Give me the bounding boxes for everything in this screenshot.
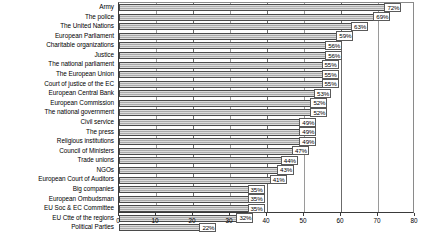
x-axis-tick [377,213,378,216]
bar [119,109,311,116]
bar-row: 52% [119,108,415,118]
bar [119,157,282,164]
category-label: Big companies [0,184,116,194]
bar-row: 49% [119,118,415,128]
bar-value-label: 56% [325,41,342,50]
bar [119,119,300,126]
bar-value-label: 53% [314,89,331,98]
bar-row: 44% [119,156,415,166]
bar-pattern [120,101,310,106]
x-axis-tick-label: 80 [410,217,417,224]
x-axis-tick-label: 30 [225,217,232,224]
bar-value-label: 55% [322,60,339,69]
bar-row: 56% [119,41,415,51]
bar-value-label: 52% [310,108,327,117]
bar [119,129,300,136]
category-label: European Commission [0,98,116,108]
category-label: Political Parties [0,222,116,232]
category-axis-labels: ArmyThe policeThe United NationsEuropean… [0,2,116,213]
bar [119,186,249,193]
category-label: Court of justice of the EC [0,79,116,89]
category-label: The United Nations [0,21,116,31]
x-axis-tick [340,213,341,216]
bar-row: 35% [119,185,415,195]
bar-pattern [120,15,373,20]
category-label: European Central Bank [0,88,116,98]
bar-pattern [120,120,299,125]
bar-value-label: 56% [325,51,342,60]
bar-pattern [120,5,384,10]
bar-pattern [120,197,248,202]
bar-pattern [120,149,292,154]
bar [119,23,352,30]
bar-value-label: 44% [281,156,298,165]
bar-pattern [120,43,325,48]
bar [119,177,271,184]
bar-rows: 72%69%63%59%56%56%55%55%55%53%52%52%49%4… [119,3,415,214]
x-axis: 01020304050607080 [118,213,414,229]
category-label: The European Union [0,69,116,79]
x-axis-tick-label: 70 [373,217,380,224]
bar-pattern [120,72,322,77]
bar-pattern [120,178,270,183]
bar [119,4,385,11]
category-label: Justice [0,50,116,60]
bar-row: 59% [119,32,415,42]
category-label: European Parliament [0,31,116,41]
x-axis-tick [155,213,156,216]
category-label: Religious institutions [0,136,116,146]
x-axis-tick [266,213,267,216]
bar-pattern [120,34,336,39]
bar-value-label: 55% [322,79,339,88]
bar-value-label: 35% [248,194,265,203]
plot-area: 72%69%63%59%56%56%55%55%55%53%52%52%49%4… [118,2,414,213]
bar-value-label: 49% [299,118,316,127]
bar-row: 52% [119,99,415,109]
bar [119,52,326,59]
category-label: Trade unions [0,155,116,165]
x-axis-tick-label: 60 [336,217,343,224]
bar [119,90,315,97]
bar-pattern [120,168,277,173]
category-label: NGOs [0,165,116,175]
bar [119,33,337,40]
bar-row: 55% [119,80,415,90]
bar-row: 43% [119,166,415,176]
bar-value-label: 52% [310,98,327,107]
bar [119,196,249,203]
x-axis-tick [303,213,304,216]
x-axis-tick-label: 50 [299,217,306,224]
x-axis-tick [229,213,230,216]
bar-pattern [120,158,281,163]
bar [119,167,278,174]
bar-row: 55% [119,70,415,80]
bar-value-label: 69% [373,12,390,21]
category-label: EU Ctte of the regions [0,213,116,223]
bar [119,138,300,145]
bar-row: 72% [119,3,415,13]
x-axis-tick-label: 0 [116,217,120,224]
bar-row: 41% [119,175,415,185]
bar [119,81,323,88]
bar-pattern [120,139,299,144]
bar [119,205,249,212]
category-label: European Ombudsman [0,194,116,204]
bar [119,148,293,155]
category-label: Charitable organizations [0,40,116,50]
category-label: EU Soc & EC Committee [0,203,116,213]
bar-value-label: 63% [351,22,368,31]
bar-pattern [120,53,325,58]
x-axis-tick [118,213,119,216]
category-label: The press [0,127,116,137]
bar-pattern [120,206,248,211]
bar-pattern [120,110,310,115]
bar-value-label: 55% [322,70,339,79]
bar-row: 49% [119,128,415,138]
bar-pattern [120,187,248,192]
bar-row: 35% [119,195,415,205]
bar [119,14,374,21]
bar-pattern [120,130,299,135]
category-label: Civil service [0,117,116,127]
bar-value-label: 35% [248,204,265,213]
bar-value-label: 47% [292,146,309,155]
